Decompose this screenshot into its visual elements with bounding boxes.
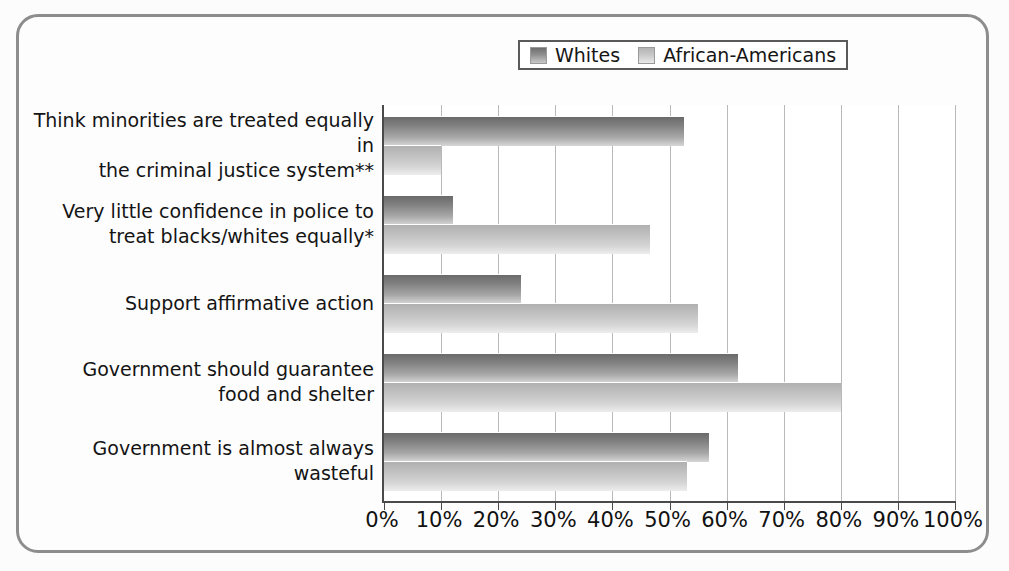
bar xyxy=(384,145,441,175)
category-label: Support affirmative action xyxy=(14,291,374,316)
bar xyxy=(384,116,684,146)
chart-legend: Whites African-Americans xyxy=(518,40,848,70)
bar xyxy=(384,195,453,225)
legend-label-african-americans: African-Americans xyxy=(663,44,836,66)
category-label: Think minorities are treated equally in … xyxy=(14,107,374,182)
category-axis-labels: Think minorities are treated equally in … xyxy=(8,105,374,501)
gridline-90 xyxy=(898,105,899,501)
x-tick-label-50: 50% xyxy=(644,508,691,532)
chart-figure: Whites African-Americans Think minoritie… xyxy=(0,0,1009,571)
bar xyxy=(384,353,738,383)
plot-area xyxy=(382,105,955,501)
bar xyxy=(384,432,709,462)
x-tick-label-40: 40% xyxy=(587,508,634,532)
x-axis-line xyxy=(382,501,955,503)
bar xyxy=(384,382,841,412)
category-label: Government is almost always wasteful xyxy=(14,436,374,486)
bar xyxy=(384,224,650,254)
legend-swatch-african-americans-icon xyxy=(638,47,655,64)
bar xyxy=(384,274,521,304)
gridline-70 xyxy=(784,105,785,501)
x-tick-label-60: 60% xyxy=(701,508,748,532)
legend-label-whites: Whites xyxy=(555,44,620,66)
x-tick-label-10: 10% xyxy=(416,508,463,532)
legend-entry-african-americans: African-Americans xyxy=(638,44,836,66)
legend-swatch-whites-icon xyxy=(530,47,547,64)
bar xyxy=(384,461,687,491)
bar xyxy=(384,303,698,333)
category-label: Very little confidence in police to trea… xyxy=(14,199,374,249)
x-tick-label-20: 20% xyxy=(473,508,520,532)
gridline-100 xyxy=(955,105,956,501)
x-tick-label-100: 100% xyxy=(923,508,983,532)
x-tick-label-30: 30% xyxy=(530,508,577,532)
x-tick-label-0: 0% xyxy=(365,508,398,532)
legend-entry-whites: Whites xyxy=(530,44,620,66)
gridline-60 xyxy=(727,105,728,501)
x-tick-label-70: 70% xyxy=(758,508,805,532)
x-tick-label-90: 90% xyxy=(873,508,920,532)
category-label: Government should guarantee food and she… xyxy=(14,357,374,407)
x-tick-label-80: 80% xyxy=(815,508,862,532)
gridline-80 xyxy=(841,105,842,501)
